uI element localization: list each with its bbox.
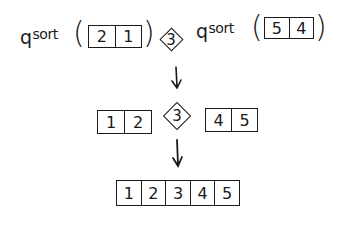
array-cell: 4 [191,181,216,205]
array-cell: 1 [117,181,142,205]
array-cell: 5 [215,181,239,205]
array-cell: 3 [166,181,191,205]
array-box-result: 1 2 3 4 5 [116,180,240,206]
array-cell: 2 [142,181,167,205]
